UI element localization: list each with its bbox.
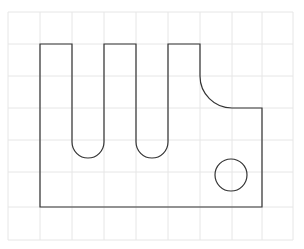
part-outline (40, 44, 262, 207)
circular-hole (215, 159, 247, 191)
cad-drawing-canvas (0, 0, 304, 249)
background-grid (8, 12, 293, 240)
